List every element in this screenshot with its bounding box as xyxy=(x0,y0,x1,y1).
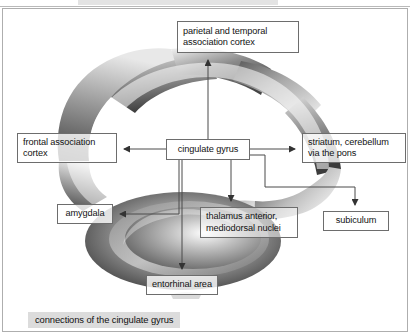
node-amygdala[interactable]: amygdala xyxy=(57,204,113,224)
node-label-line2: mediodorsal nuclei xyxy=(206,223,281,234)
header-rule xyxy=(0,6,410,7)
node-label-line1: amygdala xyxy=(65,208,104,219)
node-label-line1: striatum, cerebellum xyxy=(308,137,389,148)
node-label-line2: association cortex xyxy=(183,37,267,48)
node-parietal-temporal-association-cortex[interactable]: parietal and temporal association cortex xyxy=(177,21,299,53)
node-striatum-cerebellum[interactable]: striatum, cerebellum via the pons xyxy=(302,133,406,163)
node-label-line1: cingulate gyrus xyxy=(178,144,238,155)
page-top-strip xyxy=(0,0,410,7)
node-label-line1: entorhinal area xyxy=(152,279,212,290)
node-frontal-association-cortex[interactable]: frontal association cortex xyxy=(17,133,117,163)
arrow-cingulate-to-amygdala xyxy=(120,160,179,214)
node-label-line1: frontal association xyxy=(23,137,95,148)
node-cingulate-gyrus[interactable]: cingulate gyrus xyxy=(166,139,250,160)
node-thalamus-anterior-mediodorsal-nuclei[interactable]: thalamus anterior, mediodorsal nuclei xyxy=(200,207,298,238)
node-label-line2: via the pons xyxy=(308,148,389,159)
node-label-line1: parietal and temporal xyxy=(183,26,267,37)
cropped-header-band xyxy=(78,0,278,5)
node-subiculum[interactable]: subiculum xyxy=(323,211,389,231)
figure-caption: connections of the cingulate gyrus xyxy=(28,312,180,328)
node-label-line2: cortex xyxy=(23,148,95,159)
node-label-line1: thalamus anterior, xyxy=(206,211,281,222)
figure-page: parietal and temporal association cortex… xyxy=(0,0,410,333)
figure-frame: parietal and temporal association cortex… xyxy=(2,8,408,332)
node-entorhinal-area[interactable]: entorhinal area xyxy=(146,275,218,295)
node-label-line1: subiculum xyxy=(336,215,376,226)
